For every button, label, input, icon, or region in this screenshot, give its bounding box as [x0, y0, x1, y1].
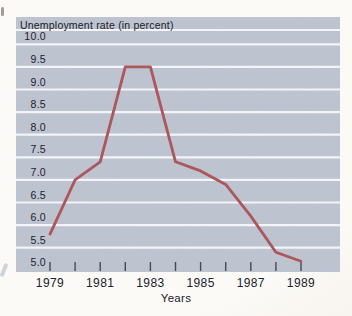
- x-axis-label: 1981: [78, 277, 122, 290]
- x-axis-label: 1989: [279, 277, 323, 290]
- x-axis-title: Years: [151, 292, 201, 305]
- y-axis-label: 9.0: [18, 77, 46, 88]
- y-axis-label: 8.5: [18, 99, 46, 110]
- x-axis-label: 1985: [179, 277, 223, 290]
- x-axis-label: 1979: [28, 277, 72, 290]
- x-axis-label: 1987: [229, 277, 273, 290]
- x-axis-label: 1983: [128, 277, 172, 290]
- y-axis-label: 7.0: [18, 167, 46, 178]
- y-axis-label: 9.5: [18, 54, 46, 65]
- y-axis-label: 8.0: [18, 122, 46, 133]
- scan-artifact: [0, 263, 8, 277]
- scan-artifact: [1, 7, 4, 16]
- page-background: Unemployment rate (in percent) 10.09.59.…: [0, 0, 352, 316]
- chart-panel: Unemployment rate (in percent) 10.09.59.…: [16, 17, 340, 272]
- y-axis-label: 7.5: [18, 144, 46, 155]
- y-axis-label: 10.0: [18, 31, 46, 42]
- y-axis-label: 6.5: [18, 190, 46, 201]
- y-axis-label: 5.5: [18, 235, 46, 246]
- y-axis-label: 5.0: [18, 257, 46, 268]
- y-axis-label: 6.0: [18, 212, 46, 223]
- grain-texture: [16, 17, 340, 272]
- chart-title: Unemployment rate (in percent): [20, 19, 300, 31]
- plot-area: [16, 17, 340, 272]
